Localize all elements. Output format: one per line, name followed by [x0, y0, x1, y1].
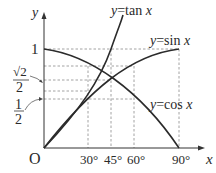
- x-axis-label: x: [206, 152, 213, 167]
- origin-label: O: [29, 151, 41, 167]
- x-tick-45: 45°: [104, 153, 122, 166]
- y-tick-sqrt2-num: √2: [13, 65, 27, 78]
- x-tick-60: 60°: [127, 153, 145, 166]
- x-axis-arrow-icon: [198, 146, 205, 151]
- y-tick-half-den: 2: [15, 113, 22, 127]
- y-tick-1: 1: [31, 42, 39, 57]
- x-tick-30: 30°: [80, 153, 98, 166]
- y-tick-half-num: 1: [15, 98, 22, 112]
- half-pointer-arrow-icon: [39, 97, 43, 101]
- y-axis-label: y: [32, 6, 38, 20]
- half-pointer-arrow: [25, 99, 41, 110]
- x-tick-90: 90°: [172, 153, 190, 166]
- trig-graph: [0, 0, 216, 173]
- tan-curve-label: y=tan x: [111, 4, 152, 18]
- sin-curve-label: y=sin x: [150, 34, 190, 48]
- cos-curve-label: y=cos x: [150, 98, 193, 112]
- y-axis-arrow-icon: [42, 12, 47, 19]
- y-tick-sqrt2-den: 2: [16, 81, 23, 95]
